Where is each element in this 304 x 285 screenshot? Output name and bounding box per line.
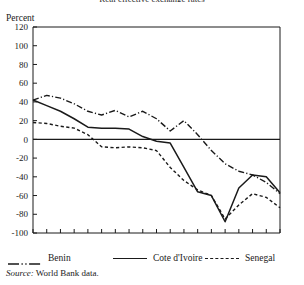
svg-text:40: 40 [19, 97, 29, 107]
svg-text:-80: -80 [16, 209, 28, 219]
x-tick-labels: 1970197219741976197819801982198419861988 [24, 236, 290, 238]
svg-text:1988: 1988 [271, 236, 290, 238]
plot-area: 120100806040200-20-40-60-80-100 19701972… [0, 22, 304, 238]
svg-text:100: 100 [15, 41, 29, 51]
svg-text:120: 120 [15, 22, 29, 32]
legend-label: Senegal [245, 251, 275, 265]
svg-text:1980: 1980 [161, 236, 180, 238]
source-note: Source: World Bank data. [6, 268, 99, 279]
data-series-group [33, 95, 280, 221]
legend-label: Cote d'Ivoire [153, 251, 202, 265]
legend-swatch-dashed [205, 258, 239, 259]
legend-swatch-dash-dot [8, 254, 42, 262]
svg-text:-60: -60 [16, 191, 28, 201]
svg-text:1970: 1970 [24, 236, 43, 238]
svg-text:1974: 1974 [79, 236, 98, 238]
legend-swatch-solid [113, 258, 147, 259]
line-chart-svg: 120100806040200-20-40-60-80-100 19701972… [0, 22, 304, 238]
source-value: World Bank data. [36, 268, 99, 278]
svg-text:-20: -20 [16, 153, 28, 163]
svg-text:60: 60 [19, 78, 29, 88]
y-tick-labels: 120100806040200-20-40-60-80-100 [12, 22, 29, 238]
x-tick-marks [33, 229, 280, 233]
source-label: Source: [6, 268, 34, 278]
svg-text:1984: 1984 [216, 236, 235, 238]
series-line-senegal [33, 123, 280, 219]
svg-text:80: 80 [19, 60, 29, 70]
svg-text:0: 0 [24, 135, 29, 145]
series-line-benin [33, 95, 280, 193]
svg-text:1986: 1986 [244, 236, 263, 238]
svg-text:-40: -40 [16, 172, 28, 182]
chart-figure: Real effective exchange rates Percent 12… [0, 0, 304, 285]
svg-text:1982: 1982 [189, 236, 207, 238]
chart-legend: BeninCote d'IvoireSenegal [0, 251, 304, 267]
svg-text:1972: 1972 [51, 236, 69, 238]
y-tick-marks [33, 27, 37, 233]
svg-text:20: 20 [19, 116, 29, 126]
svg-text:1976: 1976 [106, 236, 125, 238]
legend-label: Benin [48, 251, 71, 265]
svg-text:1978: 1978 [134, 236, 153, 238]
figure-title-clipped: Real effective exchange rates [0, 0, 304, 2]
